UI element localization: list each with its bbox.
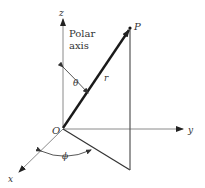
xy-projection-line — [63, 129, 130, 170]
point-p-dot — [128, 26, 131, 29]
origin-label: O — [52, 125, 60, 136]
y-axis-label: y — [187, 125, 194, 135]
polar-axis-label-line2: axis — [69, 40, 89, 51]
spherical-coordinates-diagram: z Polar axis P r θ O ϕ y x — [0, 0, 205, 188]
point-p-label: P — [133, 21, 141, 32]
x-axis-label: x — [8, 174, 13, 184]
polar-axis-label-line1: Polar — [69, 28, 96, 39]
phi-label: ϕ — [62, 151, 68, 161]
radius-label: r — [104, 73, 109, 83]
theta-label: θ — [73, 78, 79, 88]
z-axis-label: z — [58, 8, 64, 18]
